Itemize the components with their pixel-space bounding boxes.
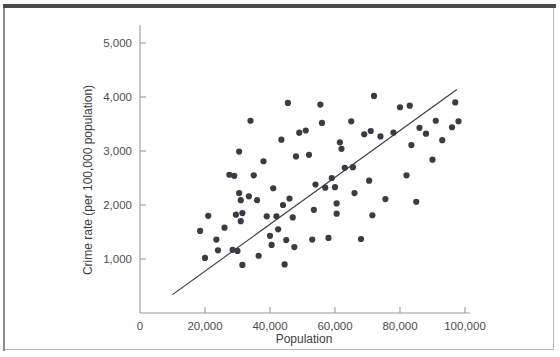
data-point <box>296 130 302 136</box>
x-tick-label: 0 <box>137 320 143 332</box>
data-point <box>403 172 409 178</box>
data-point <box>369 212 375 218</box>
data-point <box>260 158 266 164</box>
data-point <box>325 235 331 241</box>
data-point <box>338 146 344 152</box>
axes-group <box>140 25 470 313</box>
data-point <box>282 261 288 267</box>
scatter-plot: 1,0002,0003,0004,0005,000 020,00040,0006… <box>0 0 560 357</box>
regression-line <box>173 89 457 294</box>
data-point <box>213 236 219 242</box>
y-tick-label: 2,000 <box>103 199 132 211</box>
x-axis-ticks: 020,00040,00060,00080,000100,000 <box>137 307 486 332</box>
data-point <box>311 207 317 213</box>
data-point <box>247 118 253 124</box>
data-point <box>290 214 296 220</box>
figure-container: 1,0002,0003,0004,0005,000 020,00040,0006… <box>0 0 560 357</box>
data-points-group <box>197 93 462 268</box>
data-point <box>286 195 292 201</box>
data-point <box>205 213 211 219</box>
data-point <box>361 131 367 137</box>
data-point <box>236 190 242 196</box>
data-point <box>239 262 245 268</box>
data-point <box>334 211 340 217</box>
data-point <box>246 193 252 199</box>
x-tick-label: 100,000 <box>444 320 486 332</box>
data-point <box>366 178 372 184</box>
data-point <box>202 255 208 261</box>
data-point <box>439 137 445 143</box>
data-point <box>309 236 315 242</box>
data-point <box>239 210 245 216</box>
data-point <box>397 104 403 110</box>
data-point <box>371 93 377 99</box>
data-point <box>221 225 227 231</box>
data-point <box>332 184 338 190</box>
data-point <box>334 200 340 206</box>
data-point <box>423 131 429 137</box>
data-point <box>285 100 291 106</box>
data-point <box>337 139 343 145</box>
x-tick-label: 60,000 <box>317 320 352 332</box>
data-point <box>254 197 260 203</box>
x-tick-label: 40,000 <box>252 320 287 332</box>
data-point <box>278 137 284 143</box>
x-tick-label: 20,000 <box>187 320 222 332</box>
data-point <box>238 197 244 203</box>
y-tick-label: 4,000 <box>103 91 132 103</box>
data-point <box>231 173 237 179</box>
y-tick-label: 3,000 <box>103 145 132 157</box>
data-point <box>238 218 244 224</box>
data-point <box>368 128 374 134</box>
y-axis-title: Crime rate (per 100,000 population) <box>81 85 95 275</box>
data-point <box>407 103 413 109</box>
data-point <box>351 190 357 196</box>
data-point <box>382 196 388 202</box>
data-point <box>267 233 273 239</box>
data-point <box>413 199 419 205</box>
data-point <box>433 118 439 124</box>
data-point <box>408 142 414 148</box>
data-point <box>348 118 354 124</box>
data-point <box>312 181 318 187</box>
data-point <box>269 242 275 248</box>
data-point <box>251 172 257 178</box>
data-point <box>429 157 435 163</box>
data-point <box>233 212 239 218</box>
data-point <box>275 226 281 232</box>
data-point <box>358 236 364 242</box>
data-point <box>270 185 276 191</box>
data-point <box>303 127 309 133</box>
data-point <box>197 228 203 234</box>
data-point <box>256 253 262 259</box>
data-point <box>319 120 325 126</box>
data-point <box>293 153 299 159</box>
y-tick-label: 1,000 <box>103 253 132 265</box>
data-point <box>452 99 458 105</box>
y-tick-label: 5,000 <box>103 37 132 49</box>
data-point <box>306 152 312 158</box>
data-point <box>215 247 221 253</box>
data-point <box>236 148 242 154</box>
data-point <box>449 124 455 130</box>
data-point <box>280 202 286 208</box>
data-point <box>455 118 461 124</box>
x-axis-title: Population <box>276 332 333 346</box>
data-point <box>283 237 289 243</box>
data-point <box>264 213 270 219</box>
data-point <box>291 244 297 250</box>
data-point <box>377 133 383 139</box>
x-tick-label: 80,000 <box>382 320 417 332</box>
data-point <box>416 125 422 131</box>
data-point <box>317 101 323 107</box>
